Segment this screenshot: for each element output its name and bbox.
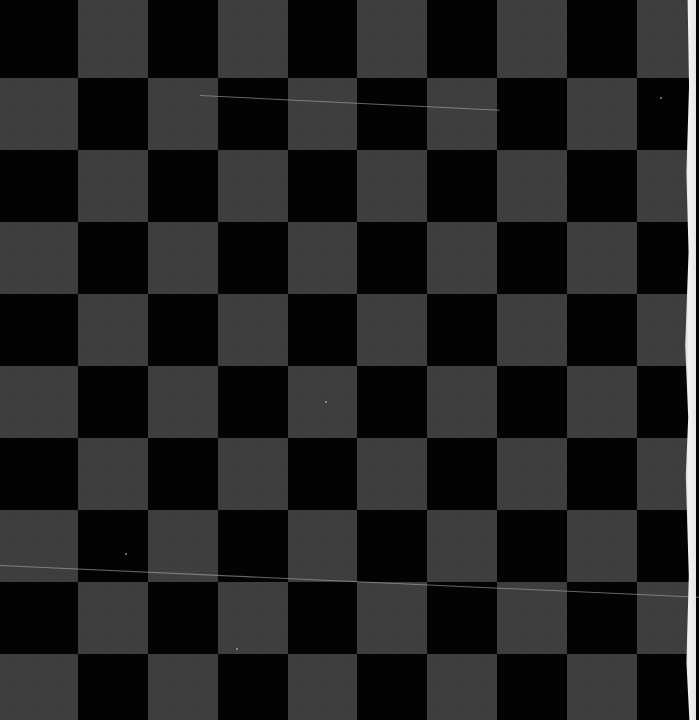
dark-square	[78, 654, 148, 720]
light-square	[218, 150, 288, 222]
light-square	[288, 654, 357, 720]
light-square	[497, 582, 567, 654]
light-square	[0, 78, 78, 150]
dust-speck	[236, 648, 238, 650]
dark-square	[567, 438, 637, 510]
light-square	[0, 510, 78, 582]
light-square	[288, 510, 357, 582]
light-square	[218, 438, 288, 510]
light-square	[497, 0, 567, 78]
dark-square	[218, 510, 288, 582]
dark-square	[427, 294, 497, 366]
dark-square	[218, 78, 288, 150]
light-square	[0, 366, 78, 438]
light-square	[357, 150, 427, 222]
light-square	[427, 510, 497, 582]
light-square	[637, 0, 696, 78]
dark-square	[0, 150, 78, 222]
light-square	[427, 366, 497, 438]
light-square	[288, 366, 357, 438]
light-square	[218, 294, 288, 366]
dark-square	[357, 366, 427, 438]
light-square	[288, 222, 357, 294]
light-square	[427, 222, 497, 294]
light-square	[148, 654, 218, 720]
dark-square	[78, 222, 148, 294]
dark-square	[497, 78, 567, 150]
light-square	[148, 510, 218, 582]
light-square	[148, 366, 218, 438]
light-square	[78, 150, 148, 222]
dark-square	[0, 0, 78, 78]
light-square	[497, 150, 567, 222]
light-square	[567, 654, 637, 720]
dark-square	[288, 438, 357, 510]
dark-square	[567, 294, 637, 366]
dust-speck	[660, 97, 662, 99]
dark-square	[148, 294, 218, 366]
dark-square	[497, 222, 567, 294]
dark-square	[637, 222, 696, 294]
light-square	[218, 582, 288, 654]
dark-square	[427, 0, 497, 78]
dark-square	[148, 582, 218, 654]
light-square	[148, 222, 218, 294]
dark-square	[288, 294, 357, 366]
light-square	[357, 438, 427, 510]
dark-square	[288, 582, 357, 654]
dark-square	[0, 294, 78, 366]
dark-square	[218, 366, 288, 438]
dark-square	[148, 438, 218, 510]
dark-square	[497, 654, 567, 720]
dark-square	[637, 510, 696, 582]
dark-square	[567, 0, 637, 78]
light-square	[78, 294, 148, 366]
light-square	[148, 78, 218, 150]
light-square	[0, 222, 78, 294]
dark-square	[427, 438, 497, 510]
dark-square	[0, 582, 78, 654]
dark-square	[637, 78, 696, 150]
dark-square	[148, 0, 218, 78]
light-square	[427, 78, 497, 150]
light-square	[288, 78, 357, 150]
light-square	[567, 366, 637, 438]
dark-square	[497, 510, 567, 582]
light-square	[497, 294, 567, 366]
dust-speck	[325, 401, 327, 403]
dark-square	[357, 510, 427, 582]
light-square	[567, 78, 637, 150]
light-square	[567, 510, 637, 582]
dark-square	[357, 222, 427, 294]
dark-square	[218, 222, 288, 294]
dark-square	[78, 366, 148, 438]
dark-square	[0, 438, 78, 510]
light-square	[497, 438, 567, 510]
light-square	[78, 0, 148, 78]
light-square	[357, 0, 427, 78]
light-square	[78, 438, 148, 510]
dark-square	[427, 150, 497, 222]
light-square	[357, 294, 427, 366]
light-square	[78, 582, 148, 654]
dark-square	[427, 582, 497, 654]
dark-square	[78, 78, 148, 150]
dark-square	[148, 150, 218, 222]
light-square	[357, 582, 427, 654]
dark-square	[288, 150, 357, 222]
dust-speck	[125, 553, 127, 555]
light-square	[218, 0, 288, 78]
dark-square	[357, 78, 427, 150]
light-square	[427, 654, 497, 720]
light-square	[567, 222, 637, 294]
dark-square	[288, 0, 357, 78]
dark-square	[218, 654, 288, 720]
dark-square	[357, 654, 427, 720]
dark-square	[497, 366, 567, 438]
dark-square	[567, 150, 637, 222]
light-square	[0, 654, 78, 720]
